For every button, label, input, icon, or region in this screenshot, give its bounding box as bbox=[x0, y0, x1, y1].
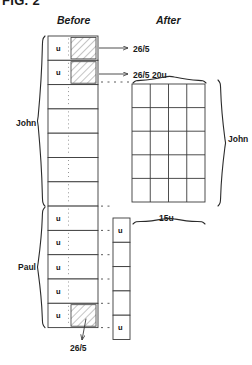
before-cell bbox=[48, 158, 98, 182]
brace-john-before bbox=[37, 36, 45, 206]
before-cell bbox=[48, 182, 98, 206]
before-column-cells: uuuuuuu bbox=[48, 36, 98, 328]
before-cell-hatch bbox=[71, 305, 96, 327]
before-cell bbox=[48, 85, 98, 109]
before-cell bbox=[48, 109, 98, 133]
before-cell-label: u bbox=[56, 214, 61, 223]
before-cell bbox=[48, 133, 98, 157]
after-paul-cell-label: u bbox=[118, 226, 123, 235]
after-john-grid bbox=[132, 84, 205, 202]
after-paul-cell bbox=[113, 267, 130, 291]
before-cell-label: u bbox=[56, 263, 61, 272]
before-cell-hatch bbox=[71, 62, 96, 83]
brace-20u bbox=[133, 76, 206, 83]
after-paul-cell bbox=[113, 291, 130, 315]
brace-paul-before bbox=[37, 207, 45, 328]
before-cell-label: u bbox=[56, 238, 61, 247]
brace-john-after bbox=[218, 80, 226, 206]
after-paul-column: uu bbox=[113, 218, 130, 340]
figure-artwork: uuuuuuu uu bbox=[0, 0, 252, 365]
before-cell-label: u bbox=[56, 68, 61, 77]
before-cell-label: u bbox=[56, 311, 61, 320]
before-cell-label: u bbox=[56, 287, 61, 296]
after-paul-cell bbox=[113, 242, 130, 266]
brace-15u bbox=[133, 218, 205, 224]
before-cell-label: u bbox=[56, 44, 61, 53]
figure-canvas: FIG. 2 Before After John Paul John 26/5 … bbox=[0, 0, 252, 365]
before-cell-hatch bbox=[71, 37, 96, 59]
after-paul-cell-label: u bbox=[118, 323, 123, 332]
